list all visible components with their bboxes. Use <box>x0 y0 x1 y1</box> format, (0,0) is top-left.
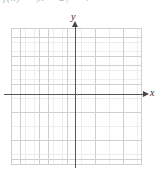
x-axis-label: x <box>150 88 154 98</box>
y-axis-line <box>75 26 76 168</box>
function-formula: f(x) = |x − 2| − 4 <box>3 0 90 3</box>
grid-area <box>11 28 142 165</box>
y-axis-label: y <box>71 12 75 22</box>
formula-strip: f(x) = |x − 2| − 4 <box>0 0 160 11</box>
graph-figure: f(x) = |x − 2| − 4 x y <box>0 0 160 172</box>
arrow-right-icon <box>143 91 149 97</box>
